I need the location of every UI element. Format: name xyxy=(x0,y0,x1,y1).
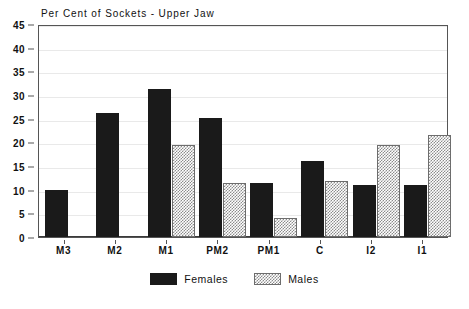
y-tick-label: 5 xyxy=(19,209,25,220)
bar-i1-females xyxy=(404,185,427,237)
bar-group-pm2 xyxy=(193,26,244,237)
bar-m3-females xyxy=(45,190,68,237)
legend-entry-females: Females xyxy=(150,273,228,285)
x-tick-mark xyxy=(166,240,167,244)
bar-i2-females xyxy=(353,185,376,237)
bar-pm2-females xyxy=(199,118,222,237)
bar-m2-females xyxy=(96,113,119,237)
y-tick-label: 25 xyxy=(13,114,25,125)
y-tick-label: 0 xyxy=(19,233,25,244)
x-tick-mark xyxy=(422,240,423,244)
y-tick-mark xyxy=(28,190,34,191)
legend-swatch-females xyxy=(150,273,177,285)
y-tick-mark xyxy=(28,119,34,120)
x-tick-mark xyxy=(320,240,321,244)
plot-inner xyxy=(39,26,447,237)
y-tick-mark xyxy=(28,167,34,168)
bar-pm2-males xyxy=(223,183,246,237)
x-tick-mark xyxy=(269,240,270,244)
y-tick-mark xyxy=(28,143,34,144)
y-tick-label: 10 xyxy=(13,185,25,196)
y-tick-mark xyxy=(28,238,34,239)
legend-label-females: Females xyxy=(184,273,228,285)
bar-group-c xyxy=(295,26,346,237)
y-tick-label: 15 xyxy=(13,162,25,173)
bar-i2-males xyxy=(377,145,400,237)
bar-m1-males xyxy=(172,145,195,237)
x-tick-mark xyxy=(217,240,218,244)
y-tick-mark xyxy=(28,214,34,215)
y-tick-mark xyxy=(28,72,34,73)
x-tick-label-m3: M3 xyxy=(56,245,71,256)
y-tick-mark xyxy=(28,25,34,26)
chart-figure: Per Cent of Sockets - Upper Jaw 05101520… xyxy=(0,0,469,309)
y-tick-label: 40 xyxy=(13,43,25,54)
plot-area xyxy=(38,25,448,238)
bar-i1-males xyxy=(428,135,451,237)
x-tick-mark xyxy=(115,240,116,244)
legend-label-males: Males xyxy=(288,273,319,285)
bar-group-pm1 xyxy=(244,26,295,237)
x-tick-label-m2: M2 xyxy=(107,245,122,256)
x-tick-mark xyxy=(371,240,372,244)
x-tick-label-i2: I2 xyxy=(366,245,376,256)
y-tick-label: 35 xyxy=(13,67,25,78)
legend-swatch-males xyxy=(254,273,281,285)
chart-legend: FemalesMales xyxy=(0,273,469,285)
y-tick-mark xyxy=(28,96,34,97)
bar-pm1-females xyxy=(250,183,273,237)
y-tick-label: 20 xyxy=(13,138,25,149)
legend-entry-males: Males xyxy=(254,273,319,285)
chart-title: Per Cent of Sockets - Upper Jaw xyxy=(41,8,215,19)
bar-group-i2 xyxy=(347,26,398,237)
x-tick-mark xyxy=(64,240,65,244)
x-tick-label-c: C xyxy=(316,245,324,256)
y-tick-label: 30 xyxy=(13,91,25,102)
bar-group-m1 xyxy=(142,26,193,237)
x-tick-label-i1: I1 xyxy=(418,245,428,256)
y-tick-label: 45 xyxy=(13,20,25,31)
y-axis: 051015202530354045 xyxy=(0,25,34,238)
x-tick-label-m1: M1 xyxy=(159,245,174,256)
bar-pm1-males xyxy=(274,218,297,237)
bar-m1-females xyxy=(148,89,171,237)
bar-c-males xyxy=(325,181,348,237)
bar-group-m2 xyxy=(90,26,141,237)
x-tick-label-pm1: PM1 xyxy=(257,245,279,256)
y-tick-mark xyxy=(28,48,34,49)
x-axis: M3M2M1PM2PM1CI2I1 xyxy=(38,240,448,260)
bar-group-i1 xyxy=(398,26,449,237)
bar-group-m3 xyxy=(39,26,90,237)
bar-c-females xyxy=(301,161,324,237)
x-tick-label-pm2: PM2 xyxy=(206,245,228,256)
